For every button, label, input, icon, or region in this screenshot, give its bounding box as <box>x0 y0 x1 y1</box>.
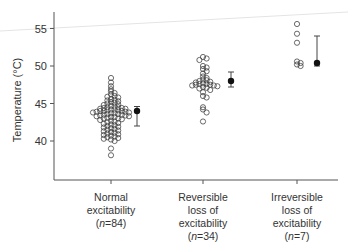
data-point <box>126 114 131 119</box>
data-point <box>211 83 216 88</box>
category-label: Irreversibleloss ofexcitability(n=7) <box>271 191 323 242</box>
mean-marker <box>134 108 140 114</box>
y-tick-label: 45 <box>35 98 47 110</box>
category-label: Normalexcitability(n=84) <box>87 191 136 229</box>
data-point <box>215 84 220 89</box>
data-point <box>208 82 213 87</box>
data-point <box>197 57 202 62</box>
data-point <box>294 31 299 36</box>
mean-marker <box>314 60 320 66</box>
mean-marker <box>228 78 234 84</box>
series-group <box>90 75 140 157</box>
series-group <box>294 21 320 68</box>
data-point <box>294 21 299 26</box>
y-tick-label: 50 <box>35 60 47 72</box>
data-point <box>108 84 113 89</box>
dot-plot-chart: 40455055 Temperature (°C) Normalexcitabi… <box>0 0 348 251</box>
y-tick-label: 40 <box>35 135 47 147</box>
category-label: Reversibleloss ofexcitability(n=34) <box>178 191 228 242</box>
y-tick-label: 55 <box>35 23 47 35</box>
y-axis-title: Temperature (°C) <box>11 58 23 142</box>
data-point <box>200 119 205 124</box>
data-point <box>190 83 195 88</box>
data-point <box>108 146 113 151</box>
series-group <box>190 54 235 124</box>
x-axis-category-labels: Normalexcitability(n=84)Reversibleloss o… <box>87 191 323 242</box>
data-point <box>204 110 209 115</box>
data-point <box>108 153 113 158</box>
axes: 40455055 <box>35 12 338 184</box>
plot-area <box>90 21 320 157</box>
data-point <box>294 40 299 45</box>
